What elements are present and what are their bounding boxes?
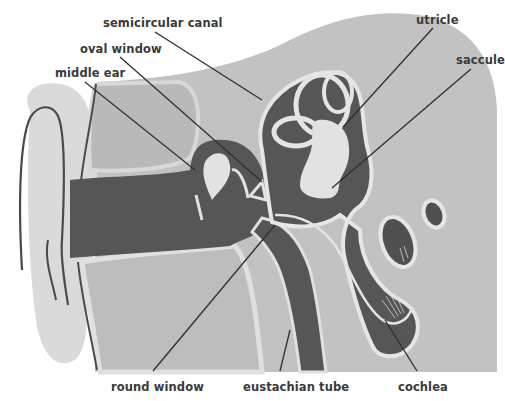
label-utricle: utricle [416,13,459,27]
lower-tissue-block [82,246,262,372]
label-round-window: round window [111,380,204,394]
label-semicircular-canal: semicircular canal [103,16,223,30]
label-saccule: saccule [456,53,505,67]
label-cochlea: cochlea [398,380,448,394]
label-eustachian-tube: eustachian tube [243,380,349,394]
label-oval-window: oval window [80,42,162,56]
upper-tissue-block [89,82,198,171]
label-middle-ear: middle ear [55,66,125,80]
